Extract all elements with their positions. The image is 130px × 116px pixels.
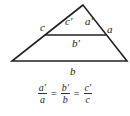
fraction-c: c′ c [84, 82, 93, 105]
denominator: c [86, 94, 90, 105]
equals-sign: = [74, 88, 80, 99]
label-a-prime: a′ [85, 16, 93, 27]
numerator: a′ [38, 82, 47, 94]
numerator: b′ [61, 82, 70, 94]
numerator: c′ [84, 82, 93, 94]
label-a: a [107, 24, 113, 35]
equals-sign: = [51, 88, 57, 99]
label-c: c [40, 22, 45, 33]
label-b: b [70, 66, 76, 77]
denominator: b [63, 94, 68, 105]
label-c-prime: c′ [65, 16, 72, 27]
fraction-a: a′ a [38, 82, 47, 105]
fraction-b: b′ b [61, 82, 70, 105]
denominator: a [40, 94, 45, 105]
ratio-formula: a′ a = b′ b = c′ c [0, 82, 130, 105]
label-b-prime: b′ [72, 38, 80, 49]
